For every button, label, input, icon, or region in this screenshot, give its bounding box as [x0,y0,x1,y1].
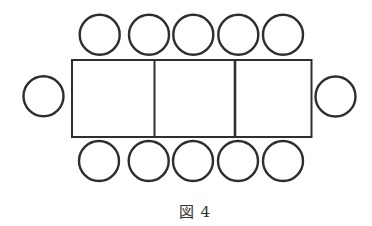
seat-top-5 [263,15,303,55]
tables-outline [72,60,312,137]
seat-top-2 [129,15,169,55]
seat-top-3 [173,15,213,55]
seat-top-1 [80,15,120,55]
left-end-seat [24,76,64,116]
seat-bottom-3 [173,141,213,181]
figure-caption: 図 4 [0,200,372,221]
seat-top-4 [218,15,258,55]
seat-bottom-4 [218,141,258,181]
seat-bottom-5 [263,141,303,181]
table-dividers [155,60,236,137]
right-end-seat [316,77,356,117]
seating-diagram [0,0,372,226]
seat-bottom-1 [79,141,119,181]
top-seat-row [80,15,303,55]
bottom-seat-row [79,141,303,181]
seat-bottom-2 [129,141,169,181]
